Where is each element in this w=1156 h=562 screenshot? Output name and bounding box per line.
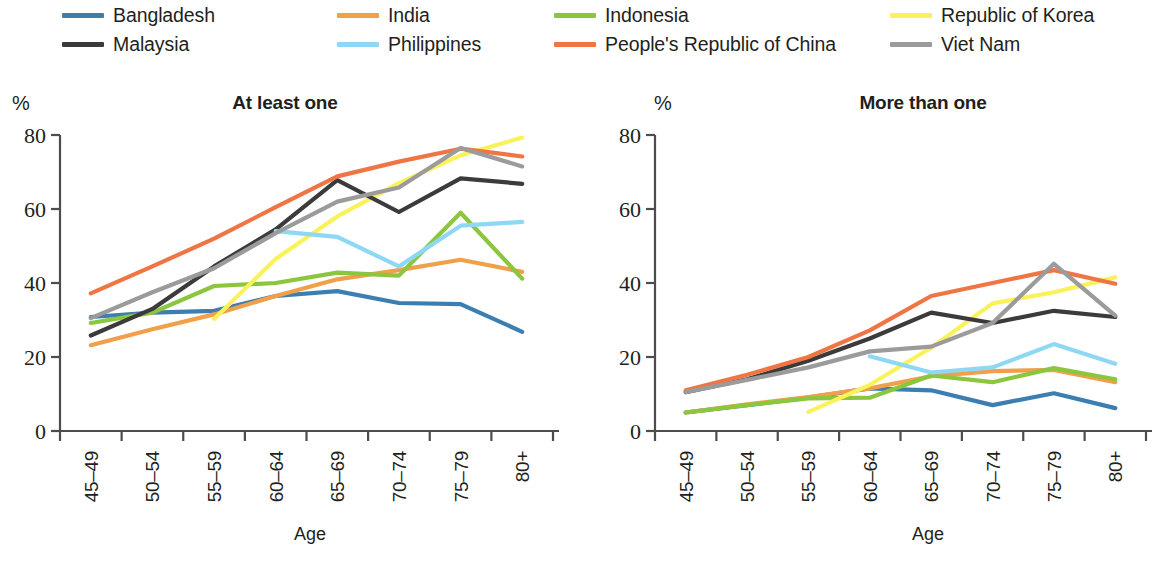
x-tick-label: 50–54 (142, 450, 163, 502)
x-tick-label: 75–79 (451, 451, 472, 502)
x-tick-label: 55–59 (204, 451, 225, 502)
x-tick-label: 75–79 (1044, 451, 1065, 502)
x-tick-label: 70–74 (983, 450, 1004, 502)
x-tick-label: 60–64 (266, 450, 287, 502)
y-tick-label: 80 (619, 123, 641, 148)
x-tick-label: 70–74 (389, 450, 410, 502)
x-tick-label: 55–59 (798, 451, 819, 502)
chart-panel-at-least-one: % At least one 02040608045–4950–5455–596… (0, 0, 580, 562)
x-axis-title-left: Age (60, 524, 560, 545)
y-tick-label: 20 (619, 345, 641, 370)
y-tick-label: 0 (630, 419, 641, 444)
x-tick-label: 60–64 (860, 450, 881, 502)
y-tick-label: 20 (24, 345, 46, 370)
x-tick-label: 80+ (512, 451, 533, 483)
series-line-people-s-republic-of-china (686, 270, 1116, 390)
y-tick-label: 60 (619, 197, 641, 222)
y-tick-label: 40 (619, 271, 641, 296)
y-tick-label: 0 (35, 419, 46, 444)
y-tick-label: 80 (24, 123, 46, 148)
x-axis-title-right: Age (698, 524, 1156, 545)
y-tick-label: 40 (24, 271, 46, 296)
x-tick-label: 65–69 (327, 451, 348, 502)
series-line-bangladesh (686, 388, 1116, 412)
chart-panel-more-than-one: % More than one 02040608045–4950–5455–59… (578, 0, 1156, 562)
x-tick-label: 45–49 (676, 451, 697, 502)
y-tick-label: 60 (24, 197, 46, 222)
series-line-people-s-republic-of-china (91, 149, 522, 294)
x-tick-label: 45–49 (81, 451, 102, 502)
x-tick-label: 80+ (1105, 451, 1126, 483)
line-chart-at-least-one: 02040608045–4950–5455–5960–6465–6970–747… (0, 0, 580, 562)
line-chart-more-than-one: 02040608045–4950–5455–5960–6465–6970–747… (578, 0, 1156, 562)
x-tick-label: 50–54 (737, 450, 758, 502)
x-tick-label: 65–69 (921, 451, 942, 502)
series-line-philippines (276, 222, 523, 267)
